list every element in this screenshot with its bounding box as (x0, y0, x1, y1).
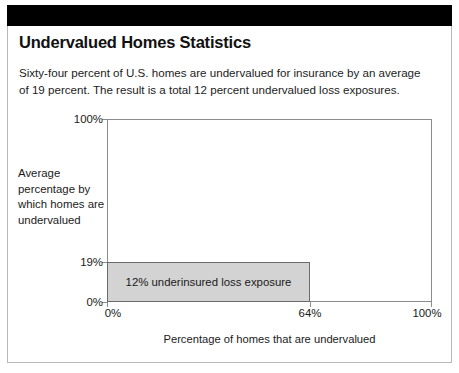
y-axis-title: Average percentage by which homes are un… (18, 166, 106, 228)
ytick-label-19: 19% (33, 256, 103, 268)
xtick-label-100: 100% (412, 307, 441, 319)
ytick-label-0: 0% (33, 296, 103, 308)
data-bar-label: 12% underinsured loss exposure (108, 263, 309, 301)
xtick-label-64: 64% (299, 307, 322, 319)
ytick-label-100: 100% (33, 113, 103, 125)
data-bar: 12% underinsured loss exposure (107, 262, 310, 302)
xtick-label-0: 0% (105, 307, 121, 319)
x-axis-title: Percentage of homes that are undervalued (107, 333, 432, 345)
screenshot-root: Undervalued Homes Statistics Sixty-four … (0, 0, 459, 373)
bar-chart: 100% 19% 0% Average percentage by which … (0, 0, 459, 373)
